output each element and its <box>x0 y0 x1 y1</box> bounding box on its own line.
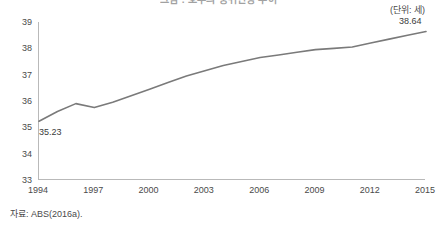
x-tick-1997: 1997 <box>73 186 113 195</box>
x-tick-2015: 2015 <box>405 186 437 195</box>
plot-area <box>38 22 425 180</box>
x-tick-2012: 2012 <box>350 186 390 195</box>
y-tick-37: 37 <box>2 71 32 80</box>
x-tick-2000: 2000 <box>129 186 169 195</box>
x-tick-2009: 2009 <box>294 186 334 195</box>
median-age-line <box>39 31 426 121</box>
x-tick-2006: 2006 <box>239 186 279 195</box>
y-tick-39: 39 <box>2 18 32 27</box>
y-tick-36: 36 <box>2 97 32 106</box>
line-chart-svg <box>39 22 426 180</box>
page-title: 그림 : 호주의 중위연령 추이 <box>0 0 437 6</box>
point-label-2015: 38.64 <box>399 17 422 26</box>
y-tick-33: 33 <box>2 176 32 185</box>
y-tick-34: 34 <box>2 150 32 159</box>
y-tick-38: 38 <box>2 44 32 53</box>
point-label-1994: 35.23 <box>39 128 62 137</box>
y-tick-35: 35 <box>2 123 32 132</box>
x-tick-1994: 1994 <box>18 186 58 195</box>
x-tick-2003: 2003 <box>184 186 224 195</box>
source-note: 자료: ABS(2016a). <box>10 207 83 220</box>
unit-label: (단위: 세) <box>390 3 425 16</box>
